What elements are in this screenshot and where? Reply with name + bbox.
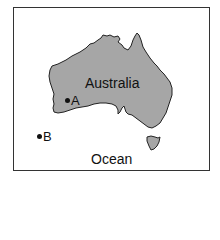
point-b-label: B bbox=[43, 129, 52, 144]
point-a-label: A bbox=[71, 93, 80, 108]
tasmania-landmass bbox=[147, 136, 160, 150]
australia-label: Australia bbox=[85, 75, 139, 91]
point-a-marker bbox=[65, 98, 70, 103]
ocean-label: Ocean bbox=[91, 151, 132, 167]
point-b-marker bbox=[37, 134, 42, 139]
